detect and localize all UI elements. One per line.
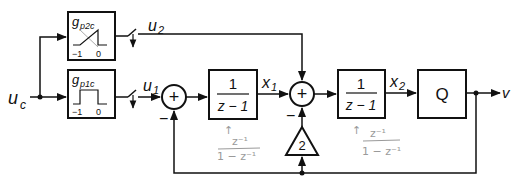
integrator-2-block: 1 z − 1 (338, 70, 385, 118)
svg-text:1: 1 (357, 75, 365, 92)
summing-junction-1: + − (159, 85, 186, 127)
x1-label: x 1 (261, 74, 277, 93)
svg-text:x: x (389, 73, 399, 90)
x2-label: x 2 (389, 73, 405, 92)
svg-text:x: x (261, 74, 271, 91)
svg-text:+: + (169, 87, 180, 107)
svg-text:z − 1: z − 1 (217, 98, 249, 114)
svg-text:z⁻¹: z⁻¹ (232, 135, 248, 148)
block-diagram: u c g p2c −1 0 g p1c −1 0 u 2 (0, 0, 522, 187)
gp1c-block: g p1c −1 0 (68, 70, 115, 118)
gp2c-block: g p2c −1 0 (68, 12, 115, 60)
gain-block: 2 (286, 127, 318, 155)
svg-text:1: 1 (153, 84, 159, 96)
svg-text:1: 1 (271, 81, 277, 93)
svg-text:u: u (8, 88, 18, 108)
svg-text:1 − z⁻¹: 1 − z⁻¹ (362, 145, 401, 158)
svg-text:0: 0 (96, 107, 101, 117)
pencil-annotation-2: ↑ z⁻¹ 1 − z⁻¹ (352, 124, 401, 158)
svg-text:2: 2 (398, 80, 405, 92)
svg-text:z − 1: z − 1 (345, 97, 377, 113)
input-label: u c (8, 88, 26, 112)
svg-text:−: − (159, 110, 168, 127)
svg-text:Q: Q (435, 85, 448, 104)
svg-text:p1c: p1c (79, 79, 95, 89)
svg-text:0: 0 (96, 49, 101, 59)
svg-text:−1: −1 (72, 49, 82, 59)
svg-text:c: c (20, 98, 26, 112)
quantizer-block: Q (418, 70, 466, 118)
svg-text:+: + (297, 84, 308, 104)
svg-text:u: u (148, 17, 157, 34)
u2-label: u 2 (148, 17, 164, 36)
u1-label: u 1 (143, 77, 159, 96)
integrator-1-block: 1 z − 1 (209, 70, 257, 119)
svg-text:2: 2 (157, 24, 164, 36)
svg-text:1: 1 (229, 75, 237, 92)
sampler-switch-u2 (115, 29, 136, 47)
sampler-switch-u1 (115, 90, 136, 108)
summing-junction-2: + − (286, 82, 314, 124)
svg-text:↑: ↑ (352, 124, 361, 137)
branch-line-gp2c (40, 37, 66, 97)
svg-text:−: − (286, 107, 295, 124)
svg-text:u: u (143, 77, 152, 94)
svg-text:−1: −1 (72, 107, 82, 117)
pencil-annotation-1: ↑ z⁻¹ 1 − z⁻¹ (217, 124, 260, 163)
svg-text:p2c: p2c (79, 21, 95, 31)
svg-text:1 − z⁻¹: 1 − z⁻¹ (217, 150, 256, 163)
svg-text:z⁻¹: z⁻¹ (370, 127, 386, 140)
svg-text:2: 2 (298, 138, 305, 153)
output-label: v (502, 84, 511, 101)
svg-text:g: g (72, 72, 80, 87)
svg-text:g: g (72, 14, 80, 29)
